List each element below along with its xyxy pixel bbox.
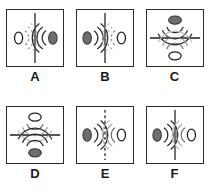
wavefront-arc-dashed-3: [111, 31, 115, 45]
source-hollow-ellipse-left: [15, 32, 23, 44]
option-cell-e[interactable]: E: [70, 97, 140, 194]
source-hollow-ellipse-right: [117, 129, 125, 141]
wavefront-arc-solid-1: [94, 31, 98, 45]
wavefront-arc-solid-3: [101, 24, 108, 53]
wavefront-arc-solid-1: [163, 128, 167, 142]
option-label-e: E: [101, 167, 110, 181]
panel-d-diagram: [7, 107, 63, 163]
panel-grid: A B: [0, 0, 209, 194]
option-label-f: F: [171, 167, 179, 181]
option-label-a: A: [30, 70, 39, 84]
source-filled-ellipse-top: [168, 16, 181, 24]
option-label-c: C: [170, 70, 179, 84]
option-panel-d[interactable]: [6, 106, 64, 164]
panel-a-diagram: [7, 10, 63, 66]
panel-e-diagram: [77, 107, 133, 163]
option-panel-a[interactable]: [6, 9, 64, 67]
option-panel-f[interactable]: [146, 106, 204, 164]
wavefront-arc-dashed-1: [25, 31, 29, 45]
source-filled-ellipse-left: [152, 129, 160, 141]
option-cell-c[interactable]: C: [140, 0, 209, 97]
option-cell-a[interactable]: A: [0, 0, 70, 97]
option-panel-c[interactable]: [146, 9, 204, 67]
wavefront-arc-light-3: [111, 128, 115, 142]
option-cell-b[interactable]: B: [70, 0, 140, 97]
source-filled-ellipse-left: [83, 129, 91, 141]
wavefront-arc-solid-1: [94, 128, 98, 142]
panel-f-diagram: [147, 107, 203, 163]
option-label-b: B: [100, 70, 109, 84]
source-hollow-ellipse-top: [29, 113, 41, 121]
wavefront-arc-light-3: [181, 128, 185, 142]
options-figure: A B: [0, 0, 209, 194]
option-cell-d[interactable]: D: [0, 97, 70, 194]
source-hollow-ellipse-right: [187, 129, 195, 141]
option-panel-e[interactable]: [76, 106, 134, 164]
wavefront-arc-solid-3: [42, 31, 46, 45]
option-cell-f[interactable]: F: [140, 97, 209, 194]
source-hollow-ellipse-bottom: [168, 52, 180, 60]
panel-b-diagram: [77, 10, 133, 66]
source-hollow-ellipse-right: [117, 32, 125, 44]
option-label-d: D: [30, 167, 39, 181]
panel-c-diagram: [147, 10, 203, 66]
wavefront-arc-solid-1: [32, 24, 39, 53]
option-panel-b[interactable]: [76, 9, 134, 67]
source-filled-ellipse-left: [83, 32, 91, 44]
source-filled-ellipse-right: [49, 32, 57, 44]
source-filled-ellipse-bottom: [29, 149, 42, 157]
